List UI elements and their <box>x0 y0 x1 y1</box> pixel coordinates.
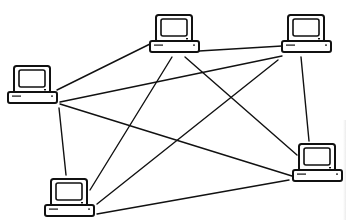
link-top-center-to-bottom-left <box>90 57 172 190</box>
link-top-right-to-bottom-right <box>301 57 309 141</box>
link-left-to-top-center <box>57 44 150 90</box>
link-left-to-bottom-right <box>60 104 292 176</box>
computer-top-right <box>282 15 331 52</box>
link-left-to-top-right <box>60 56 282 102</box>
computer-left <box>8 66 57 103</box>
link-bottom-left-to-bottom-right <box>97 180 289 214</box>
computer-icon <box>45 179 94 216</box>
computer-icon <box>293 144 342 181</box>
link-top-center-to-bottom-right <box>185 57 297 155</box>
computer-top-center <box>150 15 199 52</box>
network-diagram-canvas <box>0 0 346 220</box>
computer-bottom-left <box>45 179 94 216</box>
computer-icon <box>150 15 199 52</box>
link-top-center-to-top-right <box>199 46 282 51</box>
computer-icon <box>8 66 57 103</box>
computer-icon <box>282 15 331 52</box>
link-top-right-to-bottom-left <box>97 60 278 204</box>
network-diagram <box>0 0 346 220</box>
link-left-to-bottom-left <box>59 108 66 175</box>
computer-bottom-right <box>293 144 342 181</box>
network-links <box>57 44 309 214</box>
